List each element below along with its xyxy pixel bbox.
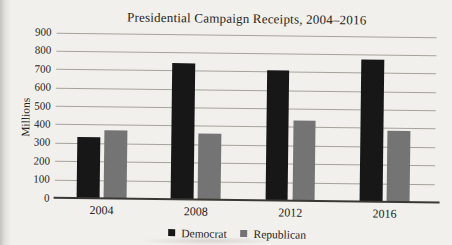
y-axis-tick-labels: 0100200300400500600700800900	[0, 0, 452, 6]
bar-chart: Presidential Campaign Receipts, 2004–201…	[0, 0, 452, 245]
x-tick-label-2004: 2004	[71, 203, 131, 218]
y-tick-label-600: 600	[9, 80, 51, 94]
legend-item-democrat: Democrat	[168, 226, 227, 241]
legend-label-republican: Republican	[254, 227, 307, 242]
x-axis-tick-labels: 2004200820122016	[0, 0, 452, 6]
y-tick-label-200: 200	[8, 154, 50, 168]
y-tick-label-500: 500	[9, 99, 51, 113]
y-tick-label-800: 800	[9, 43, 51, 57]
legend-label-democrat: Democrat	[181, 226, 227, 241]
chart-legend: DemocratRepublican	[47, 224, 427, 244]
legend-item-republican: Republican	[241, 226, 307, 241]
y-tick-label-900: 900	[10, 25, 52, 39]
y-tick-label-100: 100	[8, 172, 50, 186]
x-tick-label-2016: 2016	[355, 206, 415, 221]
y-tick-label-700: 700	[9, 62, 51, 76]
legend-swatch-republican	[241, 230, 248, 237]
chart-title: Presidential Campaign Receipts, 2004–201…	[57, 9, 437, 30]
y-tick-label-300: 300	[8, 135, 50, 149]
bars-layer	[0, 0, 452, 6]
x-tick-label-2012: 2012	[260, 205, 320, 220]
gridlines-layer	[0, 0, 452, 6]
scanned-textbook-page: Presidential Campaign Receipts, 2004–201…	[0, 0, 452, 245]
bar-democrat-2012	[265, 71, 289, 201]
x-tick-label-2008: 2008	[166, 204, 226, 219]
y-tick-label-0: 0	[8, 191, 50, 205]
bar-democrat-2008	[171, 63, 195, 199]
gridline-800	[56, 51, 436, 57]
bar-democrat-2004	[77, 137, 100, 198]
bar-republican-2004	[104, 130, 127, 198]
bar-democrat-2016	[360, 60, 384, 202]
y-tick-label-400: 400	[8, 117, 50, 131]
bar-republican-2016	[387, 131, 410, 202]
bar-republican-2012	[292, 121, 315, 201]
gridline-900	[57, 32, 437, 38]
bar-republican-2008	[198, 133, 221, 199]
legend-swatch-democrat	[168, 229, 175, 236]
